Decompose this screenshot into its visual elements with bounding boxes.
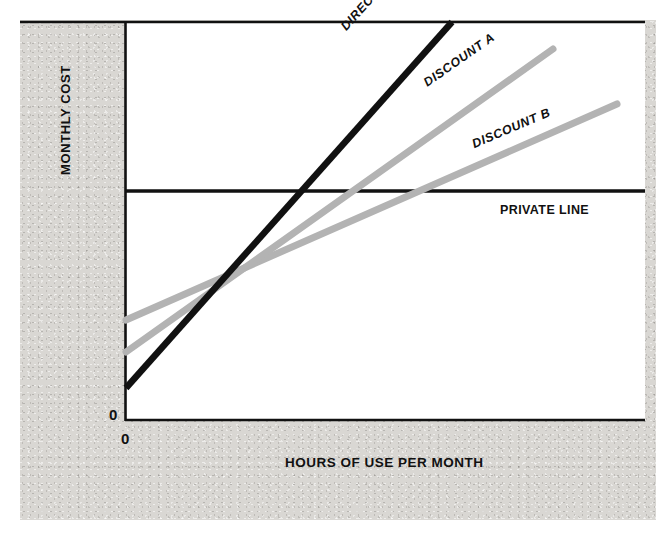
- x-axis-title: HOURS OF USE PER MONTH: [285, 455, 484, 470]
- y-axis-title: MONTHLY COST: [58, 55, 73, 175]
- series-label-private-line: PRIVATE LINE: [500, 203, 589, 217]
- y-axis-origin-tick-label: 0: [109, 406, 118, 423]
- chart-figure: MONTHLY COST HOURS OF USE PER MONTH 0 0 …: [0, 0, 666, 538]
- x-axis-origin-tick-label: 0: [121, 430, 130, 447]
- plot-area: [125, 22, 645, 420]
